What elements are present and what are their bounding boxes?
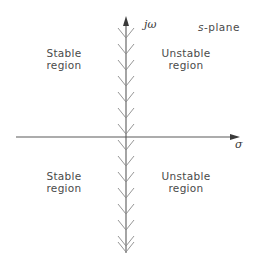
region-label-line: region <box>160 59 212 71</box>
region-label-bottom-left: Stable region <box>44 170 84 194</box>
axes-graphic <box>0 0 256 268</box>
region-label-line: Unstable <box>160 170 212 182</box>
sigma-axis-label: σ <box>235 138 243 151</box>
region-label-line: Unstable <box>160 47 212 59</box>
region-label-line: Stable <box>44 170 84 182</box>
jw-axis-arrow-icon <box>123 16 129 26</box>
s-plane-diagram: jω σ s-plane Stable region Unstable regi… <box>0 0 256 268</box>
s-plane-suffix: -plane <box>204 21 240 33</box>
region-label-bottom-right: Unstable region <box>160 170 212 194</box>
region-label-line: region <box>44 59 84 71</box>
region-label-top-right: Unstable region <box>160 47 212 71</box>
region-label-line: Stable <box>44 47 84 59</box>
region-label-line: region <box>44 182 84 194</box>
region-label-line: region <box>160 182 212 194</box>
region-label-top-left: Stable region <box>44 47 84 71</box>
jw-axis-label: jω <box>144 18 156 31</box>
s-plane-label: s-plane <box>198 21 240 33</box>
